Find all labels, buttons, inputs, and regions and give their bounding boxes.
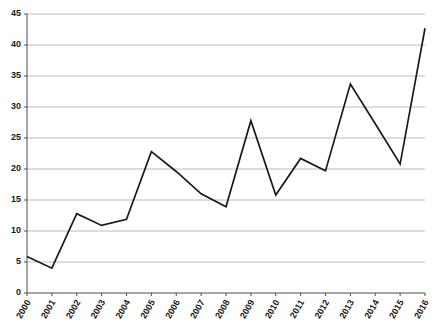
xtick-label: 2014 xyxy=(362,298,381,320)
xtick-label: 2011 xyxy=(288,298,306,320)
ytick-label: 0 xyxy=(16,287,21,297)
xtick-label: 2005 xyxy=(138,298,157,320)
xtick-label: 2008 xyxy=(213,298,232,320)
xtick-label: 2007 xyxy=(188,298,207,320)
ytick-label: 45 xyxy=(11,8,21,18)
line-chart: 051015202530354045 200020012002200320042… xyxy=(0,0,434,324)
xtick-label: 2002 xyxy=(64,298,83,320)
ytick-label: 15 xyxy=(11,194,21,204)
xtick-label: 2010 xyxy=(263,298,282,320)
series-group xyxy=(27,28,425,268)
xtick-label: 2009 xyxy=(238,298,257,320)
xtick-label: 2006 xyxy=(163,298,182,320)
xtick-label: 2004 xyxy=(114,298,133,320)
ytick-labels-group: 051015202530354045 xyxy=(11,8,21,297)
xtick-label: 2012 xyxy=(313,298,332,320)
xtick-labels-group: 2000200120022003200420052006200720082009… xyxy=(14,298,431,320)
xtick-label: 2015 xyxy=(387,298,406,320)
ytick-label: 30 xyxy=(11,101,21,111)
ytick-label: 20 xyxy=(11,163,21,173)
ytick-label: 5 xyxy=(16,256,21,266)
xtick-label: 2001 xyxy=(39,298,58,320)
ytick-label: 10 xyxy=(11,225,21,235)
chart-container: 051015202530354045 200020012002200320042… xyxy=(0,0,434,324)
ytick-label: 40 xyxy=(11,39,21,49)
xtick-label: 2013 xyxy=(337,298,356,320)
ytick-label: 35 xyxy=(11,70,21,80)
ytick-label: 25 xyxy=(11,132,21,142)
xtick-label: 2000 xyxy=(14,298,33,320)
gridlines-group xyxy=(27,14,425,262)
xtick-label: 2016 xyxy=(412,298,431,320)
xtick-label: 2003 xyxy=(89,298,108,320)
data-series-line xyxy=(27,28,425,268)
axis-group xyxy=(24,14,425,296)
